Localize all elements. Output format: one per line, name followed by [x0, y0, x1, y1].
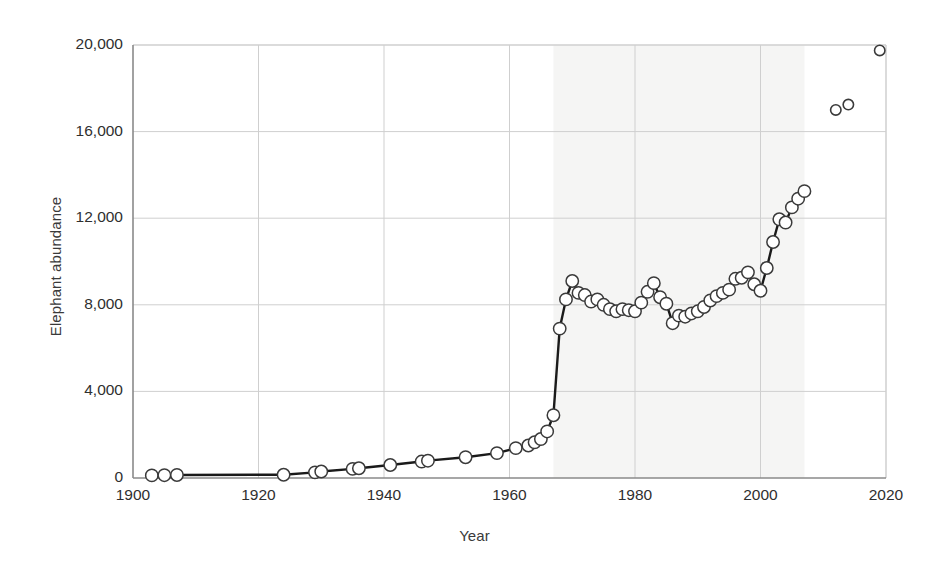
- data-point: [767, 236, 779, 248]
- data-point: [560, 293, 572, 305]
- data-point: [779, 216, 791, 228]
- data-point: [315, 465, 327, 477]
- data-point: [459, 451, 471, 463]
- data-point: [277, 469, 289, 481]
- data-point: [491, 447, 503, 459]
- data-point: [648, 277, 660, 289]
- chart-container: Elephant abundance Year 04,0008,00012,00…: [0, 0, 949, 572]
- data-point: [761, 262, 773, 274]
- data-point: [754, 285, 766, 297]
- data-point: [554, 322, 566, 334]
- data-point: [875, 45, 885, 55]
- data-point: [831, 105, 841, 115]
- data-point: [171, 469, 183, 481]
- data-point: [384, 459, 396, 471]
- data-point: [146, 469, 158, 481]
- data-point: [843, 99, 853, 109]
- data-point: [158, 469, 170, 481]
- data-point: [798, 185, 810, 197]
- data-point: [660, 298, 672, 310]
- data-point: [353, 462, 365, 474]
- data-point: [742, 266, 754, 278]
- data-point: [547, 409, 559, 421]
- data-point: [510, 442, 522, 454]
- data-point: [422, 454, 434, 466]
- plot-area: [0, 0, 949, 572]
- data-point: [566, 275, 578, 287]
- data-point: [541, 425, 553, 437]
